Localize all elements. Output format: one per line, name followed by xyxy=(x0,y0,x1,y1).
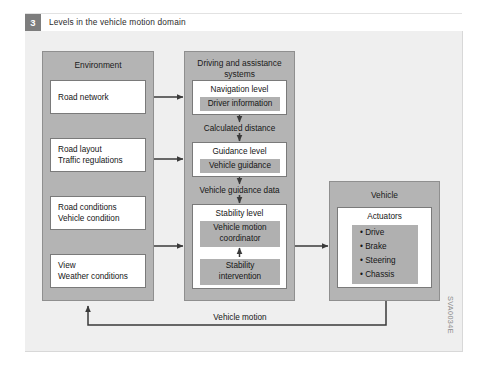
actuator-item-steering: • Steering xyxy=(360,254,396,269)
env-item-view-weather: View Weather conditions xyxy=(50,254,146,288)
env-item-road-network: Road network xyxy=(50,80,146,114)
env-item-view-weather-line2: Weather conditions xyxy=(58,271,128,283)
vehicle-motion-label: Vehicle motion xyxy=(160,313,320,322)
driver-information-box: Driver information xyxy=(200,97,280,111)
actuators-box: Actuators • Drive • Brake • Steering • C… xyxy=(337,207,432,288)
env-item-road-conditions: Road conditions Vehicle condition xyxy=(50,196,146,230)
figure-titlebar: 3 Levels in the vehicle motion domain xyxy=(25,13,462,32)
vehicle-guidance-label: Vehicle guidance xyxy=(200,160,280,172)
environment-title: Environment xyxy=(43,60,153,71)
stability-intervention-box: Stability intervention xyxy=(200,259,280,285)
actuator-item-chassis: • Chassis xyxy=(360,268,394,283)
figure-number-badge: 3 xyxy=(25,14,41,31)
stability-intervention-line1: Stability xyxy=(200,260,280,272)
actuators-list-box: • Drive • Brake • Steering • Chassis xyxy=(352,225,418,284)
env-item-road-layout-line1: Road layout xyxy=(58,144,102,156)
vehicle-guidance-box: Vehicle guidance xyxy=(200,159,280,173)
figure-container: 3 Levels in the vehicle motion domain En… xyxy=(0,0,479,379)
vehicle-motion-coordinator-box: Vehicle motion coordinator xyxy=(200,221,280,247)
navigation-level-box: Navigation level Driver information xyxy=(192,80,287,115)
driving-assistance-title-line1: Driving and assistance xyxy=(185,58,294,69)
figure-side-code: SVA0034E xyxy=(446,296,455,334)
env-item-road-layout: Road layout Traffic regulations xyxy=(50,138,146,172)
vehicle-motion-coordinator-line2: coordinator xyxy=(200,233,280,245)
actuator-item-drive: • Drive xyxy=(360,226,384,241)
env-item-road-network-line1: Road network xyxy=(58,92,109,104)
actuators-title: Actuators xyxy=(338,211,431,223)
vehicle-motion-coordinator-line1: Vehicle motion xyxy=(200,222,280,234)
env-item-road-conditions-line2: Vehicle condition xyxy=(58,213,119,225)
figure-title: Levels in the vehicle motion domain xyxy=(49,14,186,31)
env-item-road-conditions-line1: Road conditions xyxy=(58,202,117,214)
guidance-level-box: Guidance level Vehicle guidance xyxy=(192,142,287,177)
driving-assistance-title-line2: systems xyxy=(185,69,294,80)
stability-intervention-line2: intervention xyxy=(200,271,280,283)
env-item-road-layout-line2: Traffic regulations xyxy=(58,155,123,167)
vehicle-title: Vehicle xyxy=(330,190,439,201)
calculated-distance-label: Calculated distance xyxy=(192,124,287,133)
driver-information-label: Driver information xyxy=(200,98,280,110)
navigation-level-title: Navigation level xyxy=(193,84,286,96)
guidance-level-title: Guidance level xyxy=(193,146,286,158)
actuator-item-brake: • Brake xyxy=(360,240,387,255)
env-item-view-weather-line1: View xyxy=(58,260,76,272)
stability-level-box: Stability level Vehicle motion coordinat… xyxy=(192,204,287,289)
stability-level-title: Stability level xyxy=(193,208,286,220)
vehicle-guidance-data-label: Vehicle guidance data xyxy=(184,186,295,195)
